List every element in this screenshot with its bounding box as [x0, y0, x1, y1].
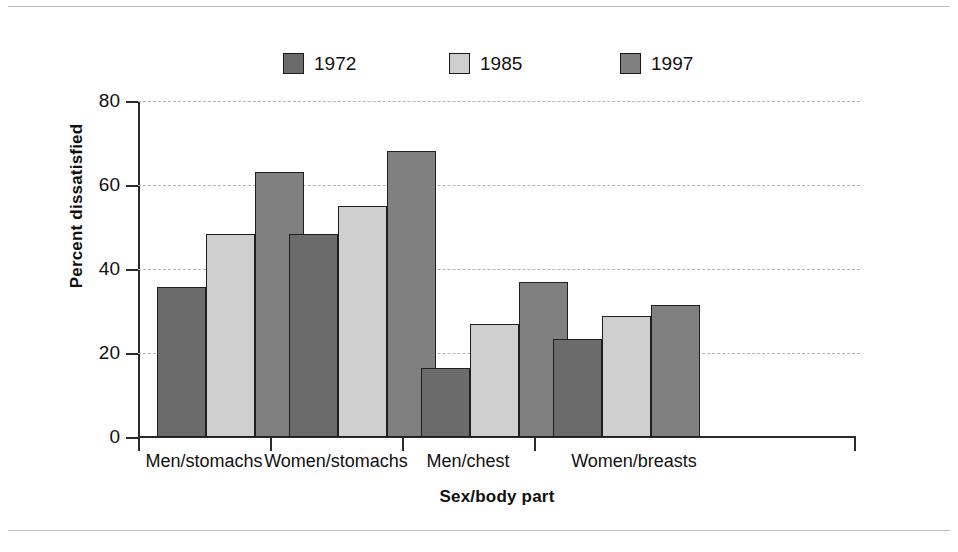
legend-item-1972: 1972 — [283, 50, 356, 76]
legend-item-1985: 1985 — [449, 50, 522, 76]
x-axis-title: Sex/body part — [138, 487, 856, 507]
plot-area — [138, 101, 860, 437]
x-tick-3 — [534, 438, 536, 451]
x-tick-4 — [854, 438, 856, 451]
bar-1997-women-breasts — [651, 305, 700, 437]
x-tick-0 — [138, 438, 140, 451]
bar-1972-men-chest — [421, 368, 470, 437]
gridline-80 — [138, 101, 860, 102]
y-tick-label-0: 0 — [80, 427, 120, 446]
y-tick-label-40: 40 — [80, 259, 120, 278]
bar-1972-women-stomachs — [289, 234, 338, 437]
y-tick-label-wrap-0: 0 — [74, 427, 120, 447]
bar-1985-women-breasts — [602, 316, 651, 437]
y-tick-label-80: 80 — [80, 91, 120, 110]
legend-label-1985: 1985 — [480, 54, 522, 73]
legend-item-1997: 1997 — [620, 50, 693, 76]
y-axis-title: Percent dissatisfied — [67, 91, 87, 321]
bar-1985-men-stomachs — [206, 234, 255, 437]
y-tick-label-wrap-80: 80 — [74, 91, 120, 111]
x-category-label-men-chest: Men/chest — [387, 452, 549, 470]
top-divider-rule — [8, 6, 950, 7]
y-tick-label-wrap-20: 20 — [74, 343, 120, 363]
legend-swatch-1997 — [620, 53, 641, 74]
gridline-60 — [138, 185, 860, 186]
x-tick-1 — [270, 438, 272, 451]
y-tick-label-60: 60 — [80, 175, 120, 194]
bar-1985-women-stomachs — [338, 206, 387, 437]
bar-1972-men-stomachs — [157, 287, 206, 437]
bottom-divider-rule — [8, 530, 950, 531]
y-tick-label-20: 20 — [80, 343, 120, 362]
chart-legend: 1972 1985 1997 — [283, 50, 703, 76]
bar-1985-men-chest — [470, 324, 519, 437]
x-tick-2 — [402, 438, 404, 451]
legend-swatch-1972 — [283, 53, 304, 74]
bar-chart-figure: 1972 1985 1997 Percent dissatisfied 0204… — [0, 0, 958, 552]
y-tick-label-wrap-60: 60 — [74, 175, 120, 195]
bar-1972-women-breasts — [553, 339, 602, 437]
x-category-label-women-breasts: Women/breasts — [544, 452, 724, 470]
legend-label-1972: 1972 — [314, 54, 356, 73]
legend-swatch-1985 — [449, 53, 470, 74]
y-tick-label-wrap-40: 40 — [74, 259, 120, 279]
legend-label-1997: 1997 — [651, 54, 693, 73]
